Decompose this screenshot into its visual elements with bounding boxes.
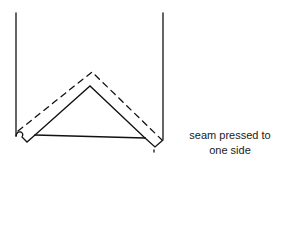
caption-seam-pressed: seam pressed to one side xyxy=(180,128,280,158)
caption-line-2: one side xyxy=(180,143,280,158)
seam-fold-line xyxy=(35,86,145,138)
left-seam-end-cap xyxy=(16,132,35,142)
caption-line-1: seam pressed to xyxy=(180,128,280,143)
seam-allowance-base xyxy=(35,135,145,138)
right-seam-end-cap xyxy=(145,138,163,147)
stitching-line-dashed xyxy=(18,72,162,140)
